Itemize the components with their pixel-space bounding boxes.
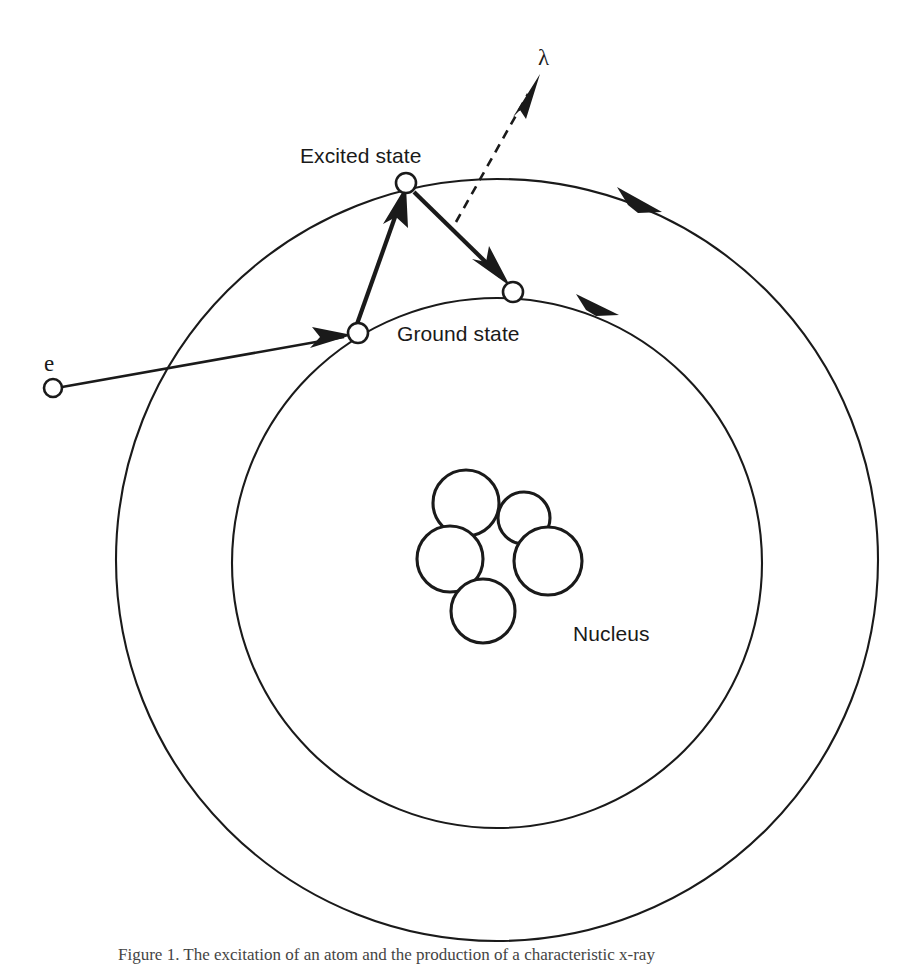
inner-shell-orbit <box>232 298 762 828</box>
emitted-photon-ray <box>456 94 528 222</box>
ground-state-label: Ground state <box>397 322 520 345</box>
excitation-transition-path <box>357 203 400 324</box>
atom-diagram: Excited state Ground state Nucleus e λ <box>0 0 900 970</box>
excited-state-electron <box>396 173 416 193</box>
photon-arrowhead-icon <box>513 74 540 119</box>
figure-root: Excited state Ground state Nucleus e λ F… <box>0 0 900 970</box>
nucleus-label: Nucleus <box>573 622 650 645</box>
ground-state-electron-struck <box>348 323 368 343</box>
caption-strip: Figure 1. The excitation of an atom and … <box>0 948 900 970</box>
ground-state-electron-relaxed <box>503 282 523 302</box>
incident-electron-trajectory <box>62 337 344 387</box>
emitted-photon-label: λ <box>538 45 550 70</box>
excited-state-label: Excited state <box>300 144 422 167</box>
outer-shell-orbit <box>116 179 878 941</box>
nucleon <box>514 527 582 595</box>
nucleon <box>451 579 515 643</box>
incident-electron-label: e <box>44 351 54 376</box>
nucleus-cluster <box>417 470 582 643</box>
figure-caption: Figure 1. The excitation of an atom and … <box>118 948 655 965</box>
incident-electron <box>44 379 62 397</box>
